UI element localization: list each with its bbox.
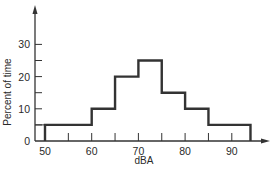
y-tick-label: 0 [24, 135, 30, 147]
y-tick-label: 30 [18, 38, 30, 50]
y-ticks: 0102030 [18, 38, 42, 147]
histogram-chart: 0102030 5060708090 dBA Percent of time [0, 0, 273, 171]
x-ticks: 5060708090 [39, 133, 238, 157]
x-axis-label: dBA [135, 155, 154, 166]
histogram-outline [45, 61, 250, 142]
y-axis-label: Percent of time [2, 58, 13, 126]
x-tick-label: 50 [39, 145, 51, 157]
y-tick-label: 20 [18, 71, 30, 83]
x-axis-arrow-icon [261, 139, 270, 144]
x-axis [35, 139, 270, 144]
y-axis-arrow-icon [33, 5, 38, 14]
x-tick-label: 90 [226, 145, 238, 157]
x-tick-label: 80 [179, 145, 191, 157]
y-tick-label: 10 [18, 103, 30, 115]
x-tick-label: 60 [86, 145, 98, 157]
histogram-steps [35, 61, 250, 142]
y-axis [33, 5, 38, 141]
